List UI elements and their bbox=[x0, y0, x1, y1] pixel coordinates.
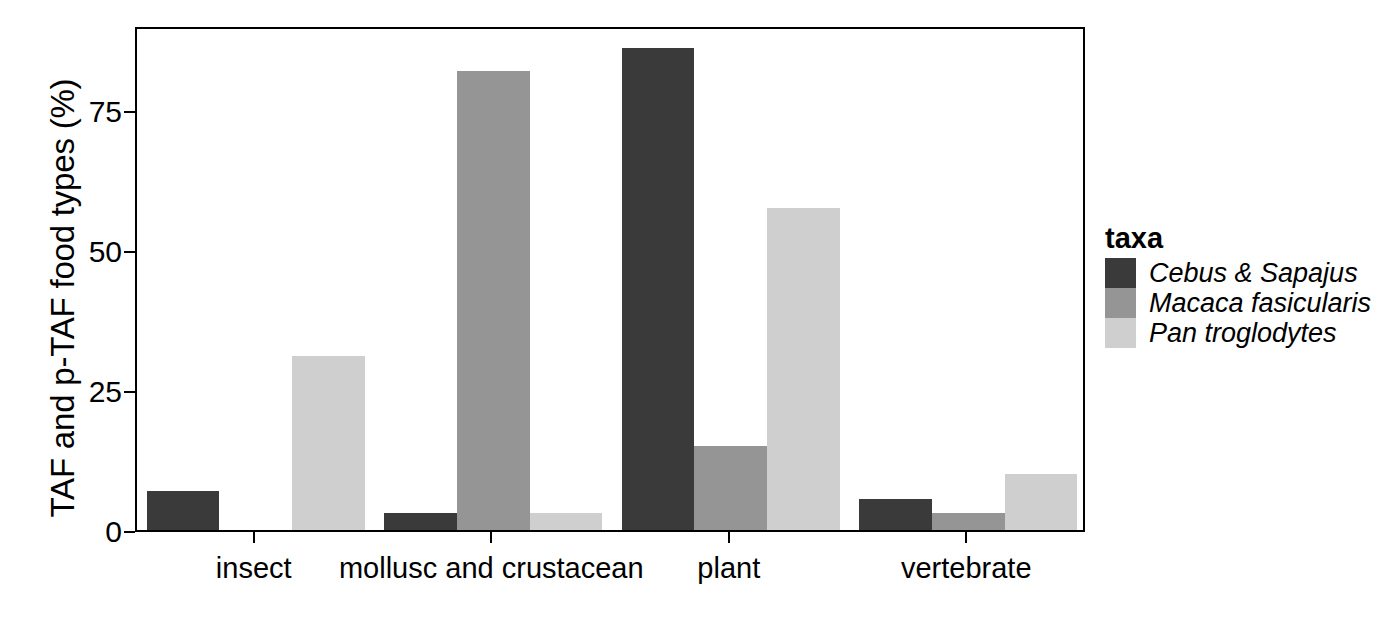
bar bbox=[530, 513, 603, 530]
legend-color-swatch bbox=[1105, 258, 1136, 288]
y-axis-tick-labels: 0255075 bbox=[62, 0, 122, 622]
bar bbox=[292, 356, 365, 530]
x-axis-tick-label: vertebrate bbox=[901, 551, 1032, 585]
bars-layer bbox=[137, 29, 1083, 530]
legend-color-swatch bbox=[1105, 318, 1136, 348]
legend-entry-label: Cebus & Sapajus bbox=[1149, 258, 1358, 288]
plot-panel bbox=[135, 27, 1085, 532]
x-axis-tick-label: plant bbox=[697, 551, 760, 585]
x-axis-tick-mark bbox=[253, 532, 255, 543]
legend-title: taxa bbox=[1105, 222, 1371, 254]
x-axis-tick-mark bbox=[728, 532, 730, 543]
bar-chart-figure: TAF and p-TAF food types (%) 0255075 tax… bbox=[0, 0, 1381, 622]
legend-entry-label: Macaca fasicularis bbox=[1149, 288, 1371, 318]
y-axis-tick-mark bbox=[124, 111, 135, 113]
bar bbox=[767, 208, 840, 530]
legend-entries: Cebus & SapajusMacaca fasicularisPan tro… bbox=[1105, 258, 1371, 348]
x-axis-tick-label: insect bbox=[216, 551, 292, 585]
legend-entry: Macaca fasicularis bbox=[1105, 288, 1371, 318]
y-axis-tick-label: 25 bbox=[62, 377, 122, 407]
legend-entry: Cebus & Sapajus bbox=[1105, 258, 1371, 288]
legend: taxa Cebus & SapajusMacaca fasicularisPa… bbox=[1105, 222, 1371, 348]
legend-entry-label: Pan troglodytes bbox=[1149, 318, 1337, 348]
bar bbox=[1005, 474, 1078, 530]
bar bbox=[859, 499, 932, 530]
bar bbox=[694, 446, 767, 530]
y-axis-tick-label: 75 bbox=[62, 97, 122, 127]
y-axis-tick-mark bbox=[124, 391, 135, 393]
bar bbox=[932, 513, 1005, 530]
x-axis-tick-mark bbox=[490, 532, 492, 543]
x-axis-tick-label: mollusc and crustacean bbox=[339, 551, 644, 585]
bar bbox=[147, 491, 220, 530]
bar bbox=[457, 71, 530, 530]
bar bbox=[384, 513, 457, 530]
y-axis-tick-mark bbox=[124, 251, 135, 253]
y-axis-tick-mark bbox=[124, 531, 135, 533]
legend-color-swatch bbox=[1105, 288, 1136, 318]
legend-entry: Pan troglodytes bbox=[1105, 318, 1371, 348]
x-axis-tick-mark bbox=[965, 532, 967, 543]
y-axis-tick-label: 0 bbox=[62, 517, 122, 547]
bar bbox=[622, 48, 695, 530]
y-axis-tick-label: 50 bbox=[62, 237, 122, 267]
